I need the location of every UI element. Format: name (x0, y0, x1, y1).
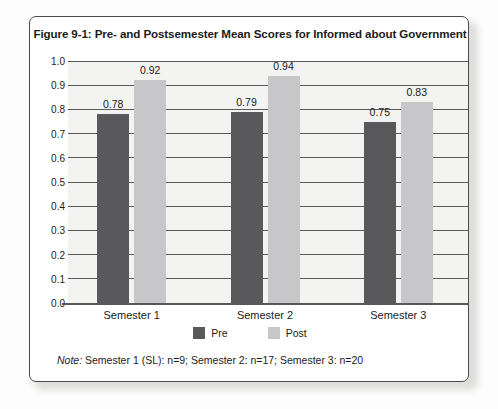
figure-note: Note: Semester 1 (SL): n=9; Semester 2: … (57, 354, 363, 366)
page-title: Figure 9-1: Pre- and Postsemester Mean S… (32, 27, 468, 40)
y-axis-tick-label: 0.1 (31, 273, 65, 284)
note-label: Note: (57, 354, 82, 366)
legend-label: Post (286, 327, 307, 339)
plot-area: 0.780.920.790.940.750.83 (68, 61, 468, 303)
x-axis-label-1: Semester 1 (72, 309, 192, 321)
y-axis-tick-label: 1.0 (31, 56, 65, 67)
bar-post-1 (134, 80, 166, 303)
bar-post-3 (401, 102, 433, 303)
chart-legend: PrePost (30, 327, 470, 339)
page-background: Figure 9-1: Pre- and Postsemester Mean S… (0, 0, 498, 409)
y-axis-tick-label: 0.5 (31, 177, 65, 188)
chart-plot-wrapper: 1.00.90.80.70.60.50.40.30.20.10.0 0.780.… (30, 61, 470, 317)
legend-swatch-pre (193, 327, 205, 339)
bar-pre-1 (97, 114, 129, 303)
x-axis-label-3: Semester 3 (338, 309, 458, 321)
y-axis: 1.00.90.80.70.60.50.40.30.20.10.0 (30, 61, 68, 303)
y-axis-tick-label: 0.3 (31, 225, 65, 236)
y-axis-tick-label: 0.4 (31, 201, 65, 212)
legend-item-post: Post (268, 327, 307, 339)
y-axis-tick-label: 0.7 (31, 128, 65, 139)
y-axis-tick-label: 0.6 (31, 152, 65, 163)
bar-pre-3 (364, 122, 396, 304)
bar-value-label: 0.83 (392, 86, 442, 98)
x-axis-label-2: Semester 2 (205, 309, 325, 321)
note-text: Semester 1 (SL): n=9; Semester 2: n=17; … (82, 354, 363, 366)
bar-value-label: 0.79 (222, 96, 272, 108)
legend-label: Pre (211, 327, 227, 339)
bar-value-label: 0.78 (88, 98, 138, 110)
y-axis-tick-label: 0.0 (31, 298, 65, 309)
bar-value-label: 0.92 (125, 64, 175, 76)
y-axis-tick-label: 0.8 (31, 104, 65, 115)
legend-swatch-post (268, 327, 280, 339)
legend-item-pre: Pre (193, 327, 227, 339)
y-axis-tick-label: 0.9 (31, 80, 65, 91)
x-axis-line (62, 303, 468, 305)
bar-value-label: 0.75 (355, 106, 405, 118)
bar-value-label: 0.94 (259, 60, 309, 72)
figure-card: Figure 9-1: Pre- and Postsemester Mean S… (29, 16, 469, 382)
bar-post-2 (268, 76, 300, 303)
bar-pre-2 (231, 112, 263, 303)
y-axis-tick-label: 0.2 (31, 249, 65, 260)
